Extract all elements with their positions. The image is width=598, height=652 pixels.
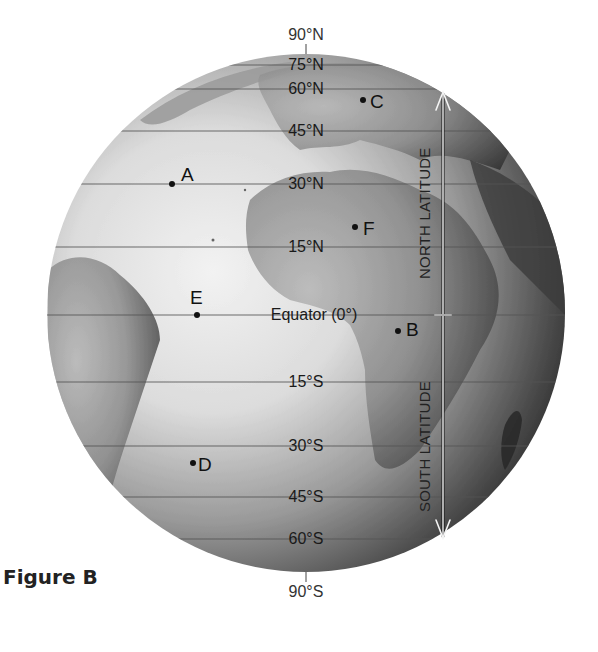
point-c-label: C bbox=[370, 92, 384, 111]
latitude-label-45s: 45°S bbox=[286, 489, 327, 505]
latitude-label-15n: 15°N bbox=[285, 239, 327, 255]
latitude-label-60s: 60°S bbox=[286, 531, 327, 547]
north-pole-label: 90°N bbox=[288, 27, 324, 43]
latitude-label-30s: 30°S bbox=[286, 438, 327, 454]
south-latitude-label: SOUTH LATITUDE bbox=[416, 381, 433, 512]
point-e-label: E bbox=[190, 288, 203, 307]
globe bbox=[0, 0, 598, 652]
point-a-label: A bbox=[181, 165, 194, 184]
figure-caption: Figure B bbox=[3, 565, 98, 589]
figure-b-globe-diagram: 90°N 90°S 75°N 60°N 45°N 30°N 15°N Equat… bbox=[0, 0, 598, 652]
point-b-label: B bbox=[406, 320, 419, 339]
point-f-label: F bbox=[363, 219, 375, 238]
north-latitude-label: NORTH LATITUDE bbox=[416, 148, 433, 279]
point-d-label: D bbox=[198, 455, 212, 474]
south-pole-label: 90°S bbox=[289, 584, 324, 600]
latitude-label-75n: 75°N bbox=[285, 57, 327, 73]
latitude-label-30n: 30°N bbox=[285, 176, 327, 192]
latitude-label-15s: 15°S bbox=[286, 374, 327, 390]
latitude-label-60n: 60°N bbox=[285, 81, 327, 97]
equator-label: Equator (0°) bbox=[268, 307, 360, 323]
latitude-label-45n: 45°N bbox=[285, 123, 327, 139]
